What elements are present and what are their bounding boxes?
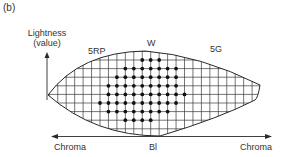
gamut-dot	[115, 84, 119, 88]
gamut-dot	[149, 67, 153, 71]
gamut-dot	[166, 110, 170, 114]
gamut-dot	[183, 93, 187, 97]
gamut-dot	[149, 84, 153, 88]
gamut-dot	[140, 58, 144, 62]
munsell-grid	[40, 40, 270, 146]
gamut-dot	[174, 67, 178, 71]
gamut-dot	[166, 67, 170, 71]
gamut-dot	[115, 93, 119, 97]
gamut-dot	[132, 101, 136, 105]
gamut-dot	[166, 75, 170, 79]
gamut-dot	[157, 110, 161, 114]
gamut-dot	[149, 101, 153, 105]
gamut-dot	[140, 118, 144, 122]
gamut-dot	[174, 75, 178, 79]
gamut-dot	[157, 58, 161, 62]
gamut-dot	[132, 110, 136, 114]
color-solid-diagram	[0, 0, 288, 157]
gamut-dot	[149, 118, 153, 122]
gamut-dot	[149, 93, 153, 97]
gamut-dot	[98, 101, 102, 105]
gamut-dot	[123, 84, 127, 88]
gamut-dot	[157, 75, 161, 79]
gamut-dot	[132, 67, 136, 71]
gamut-dot	[140, 93, 144, 97]
gamut-dot	[157, 101, 161, 105]
gamut-dot	[140, 84, 144, 88]
gamut-dot	[132, 118, 136, 122]
gamut-dot	[149, 58, 153, 62]
gamut-dot	[107, 110, 111, 114]
gamut-dot	[149, 110, 153, 114]
gamut-dot	[140, 67, 144, 71]
gamut-dot	[123, 118, 127, 122]
gamut-dot	[123, 93, 127, 97]
gamut-dot	[140, 101, 144, 105]
gamut-dot	[115, 75, 119, 79]
lightness-axis-arrow	[45, 52, 50, 100]
gamut-dot	[115, 110, 119, 114]
gamut-dot	[123, 67, 127, 71]
gamut-dot	[107, 101, 111, 105]
gamut-dot	[115, 101, 119, 105]
gamut-dot	[166, 93, 170, 97]
gamut-dot	[132, 93, 136, 97]
gamut-dot	[140, 75, 144, 79]
gamut-dot	[132, 75, 136, 79]
gamut-dot	[174, 93, 178, 97]
gamut-dot	[166, 84, 170, 88]
color-solid-outline	[48, 51, 260, 136]
gamut-dot	[123, 75, 127, 79]
gamut-dot	[157, 67, 161, 71]
gamut-dot	[107, 84, 111, 88]
gamut-dot	[123, 110, 127, 114]
gamut-dot	[149, 75, 153, 79]
chroma-axis-arrow	[51, 134, 272, 139]
gamut-dot	[166, 101, 170, 105]
gamut-dot	[140, 110, 144, 114]
gamut-dot	[157, 93, 161, 97]
gamut-dot	[174, 84, 178, 88]
gamut-dot	[123, 101, 127, 105]
gamut-dot	[174, 101, 178, 105]
gamut-dot	[107, 93, 111, 97]
gamut-dot	[157, 84, 161, 88]
gamut-dot	[132, 84, 136, 88]
